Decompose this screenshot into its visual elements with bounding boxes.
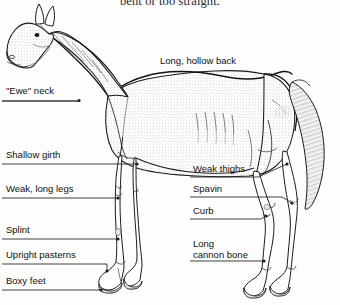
hind-fetlock-near: [262, 267, 271, 270]
leader-dot-boxy-feet: [99, 288, 102, 291]
callout-splint: Splint: [6, 225, 30, 236]
leader-dot-weak-thighs: [285, 162, 288, 165]
front-knee-detail: [115, 186, 138, 196]
hock-far-stipple: [290, 200, 296, 206]
horse-neck: [49, 33, 128, 98]
leader-dot-upright-pasterns: [105, 269, 108, 272]
leader-dot-weak-long-legs: [116, 196, 119, 199]
jaw-curve: [28, 47, 50, 66]
horse-tail: [289, 82, 324, 209]
hind-fetlock-far: [287, 266, 296, 269]
hock-far: [290, 198, 298, 202]
neck-underline-bulge: [49, 32, 128, 97]
stifle: [258, 148, 277, 152]
hoof-boxy-far: [124, 279, 142, 289]
nostril: [9, 55, 14, 58]
hip-point: [272, 100, 286, 114]
horse-eye: [35, 33, 40, 37]
pastern-upright-near: [118, 268, 121, 282]
callout-weak-thighs: Weak thighs: [193, 164, 245, 175]
callout-upright-pasterns: Upright pasterns: [6, 250, 76, 261]
mane: [54, 34, 108, 82]
mouth-line: [7, 62, 21, 65]
callout-long-hollow-back: Long, hollow back: [160, 56, 236, 67]
rib-lines: [196, 112, 234, 145]
leader-dot-curb: [264, 214, 267, 217]
thigh-weak-outline: [261, 120, 272, 176]
fetlock-near: [116, 261, 125, 264]
callout-long-cannon-bone-line2: cannon bone: [193, 250, 248, 261]
leader-upright-pasterns: [2, 264, 107, 271]
callout-weak-long-legs: Weak, long legs: [6, 184, 73, 195]
forelock: [40, 24, 49, 33]
hoof-hind-near: [244, 288, 266, 298]
hindquarters: [256, 74, 295, 175]
clipped-caption-text: bent or too straight.: [0, 0, 340, 9]
topline-hollow-back: [108, 71, 292, 96]
callout-shallow-girth: Shallow girth: [6, 150, 60, 161]
tail-top: [292, 80, 310, 86]
leader-dot-spavin: [290, 201, 293, 204]
horse-conformation-figure: bent or too straight.: [0, 0, 340, 305]
hoof-hind-far: [270, 286, 290, 296]
shoulder-shading: [118, 92, 162, 148]
leader-dot-shallow-girth: [135, 162, 138, 165]
hip-stipple: [274, 105, 292, 119]
splint-mark: [115, 228, 120, 235]
hock-near: [265, 203, 275, 207]
leader-spavin: [190, 197, 292, 203]
front-leg-far: [124, 158, 142, 286]
horse-barrel: [106, 71, 293, 177]
shoulder: [108, 96, 127, 159]
horse-head: [7, 23, 53, 68]
callout-spavin: Spavin: [193, 184, 222, 195]
callout-long-cannon-bone-line1: Long: [193, 239, 214, 250]
elbow: [118, 152, 136, 158]
horse-ear-far: [45, 6, 55, 26]
leader-dot-ewe-neck: [77, 99, 80, 102]
callout-curb: Curb: [193, 206, 214, 217]
neck-crest-concave: [49, 34, 108, 96]
front-leg-near: [99, 156, 124, 290]
flank-crease: [248, 130, 252, 167]
hind-leg-near: [244, 171, 274, 296]
croup-curve: [264, 74, 297, 131]
hind-leg-far: [270, 151, 298, 294]
leader-dot-long-cannon-bone: [262, 259, 265, 262]
leader-dot-splint: [116, 237, 119, 240]
horse-muzzle: [7, 51, 28, 67]
curb-mark: [263, 214, 270, 216]
cheekbone: [33, 44, 48, 47]
callout-boxy-feet: Boxy feet: [6, 276, 46, 287]
spavin-mark: [264, 204, 270, 209]
chest-front: [120, 97, 128, 157]
hoof-boxy-near: [99, 283, 122, 293]
callout-ewe-neck: "Ewe" neck: [6, 86, 54, 97]
leader-lines-group: [2, 99, 294, 292]
